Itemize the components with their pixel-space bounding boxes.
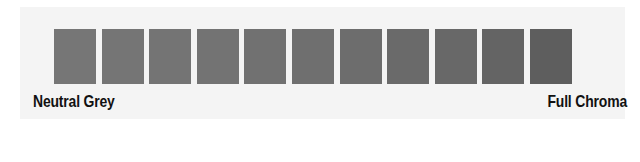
chroma-swatch <box>387 29 429 84</box>
chroma-swatch <box>292 29 334 84</box>
chroma-swatch <box>102 29 144 84</box>
chroma-swatch <box>197 29 239 84</box>
chroma-swatch <box>340 29 382 84</box>
neutral-grey-label: Neutral Grey <box>33 92 115 112</box>
chroma-swatch <box>435 29 477 84</box>
chroma-swatch <box>530 29 572 84</box>
chroma-swatch <box>54 29 96 84</box>
chroma-swatch <box>482 29 524 84</box>
chroma-swatch-row <box>54 29 572 84</box>
chroma-swatch <box>149 29 191 84</box>
full-chroma-label: Full Chroma <box>547 92 627 112</box>
chroma-swatch <box>244 29 286 84</box>
